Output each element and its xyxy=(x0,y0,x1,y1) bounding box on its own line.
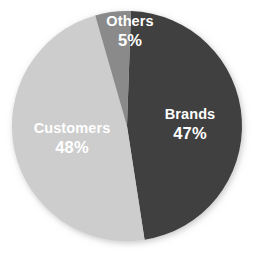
pie-chart-canvas xyxy=(0,0,259,262)
pie-chart-figure: Others 5% Brands 47% Customers 48% xyxy=(0,0,259,262)
pie-slices-group xyxy=(12,11,242,241)
pie-slice-brands[interactable] xyxy=(127,11,242,240)
